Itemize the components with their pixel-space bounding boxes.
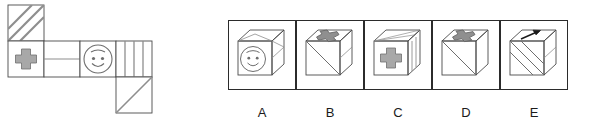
net-cell-single-diagonal <box>116 77 152 113</box>
option-e[interactable]: E <box>501 21 568 121</box>
option-d-box[interactable] <box>433 21 500 90</box>
answer-options: A B <box>229 21 568 121</box>
net-cell-vertical-stripes <box>116 41 152 77</box>
option-c[interactable]: C <box>365 21 432 121</box>
option-a[interactable]: A <box>229 21 296 121</box>
option-a-smiley-face-icon <box>241 47 266 72</box>
option-b-label: B <box>326 105 335 120</box>
net-cell-diagonal-stripes <box>8 5 44 41</box>
cube-net <box>8 5 152 113</box>
option-d[interactable]: D <box>433 21 500 121</box>
option-c-label: C <box>393 105 402 120</box>
option-b[interactable]: B <box>297 21 364 121</box>
option-a-label: A <box>258 105 267 120</box>
option-d-label: D <box>461 105 470 120</box>
smiley-face-icon <box>84 45 112 73</box>
net-cell-cross <box>8 41 44 77</box>
option-b-box[interactable] <box>297 21 364 90</box>
cube-folding-puzzle: A B <box>0 0 600 129</box>
net-cell-smiley <box>80 41 116 77</box>
option-e-label: E <box>530 105 539 120</box>
net-cell-blank-line <box>44 41 80 77</box>
